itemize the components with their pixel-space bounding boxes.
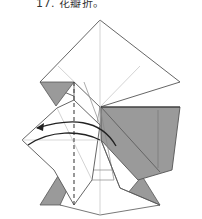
origami-diagram [0,0,202,219]
